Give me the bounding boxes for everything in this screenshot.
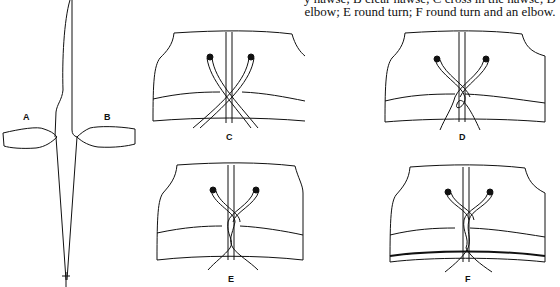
label-d: D: [459, 132, 466, 142]
label-a: A: [23, 112, 30, 122]
bow-diagram-e: [157, 163, 303, 270]
boats-diagram: [3, 0, 135, 287]
label-e: E: [228, 274, 234, 284]
bow-diagram-d: [385, 31, 545, 130]
bow-diagram-f: [390, 165, 545, 272]
label-c: C: [226, 132, 233, 142]
label-b: B: [104, 112, 111, 122]
bow-diagram-c: [153, 31, 305, 128]
label-f: F: [465, 274, 471, 284]
